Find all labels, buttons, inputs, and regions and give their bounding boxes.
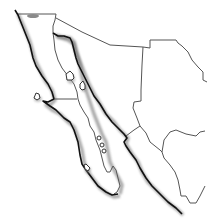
state-borders — [17, 14, 207, 203]
island-cedros — [34, 93, 42, 102]
island-tiburon — [80, 81, 87, 92]
island-magdalena — [84, 164, 91, 173]
map-container — [0, 0, 216, 223]
mexico-northwest-map — [0, 0, 216, 223]
coast-shadows — [18, 14, 183, 215]
island-angel-de-la-guarda — [66, 71, 75, 84]
lake-laguna-salada — [27, 14, 39, 18]
